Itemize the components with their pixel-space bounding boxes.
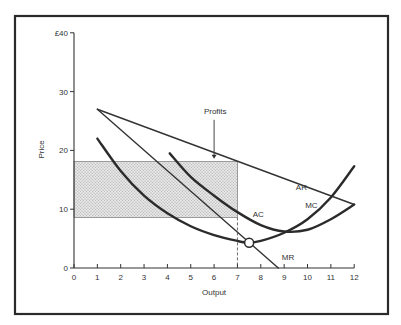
x-tick-label: 6 (212, 273, 217, 282)
x-tick-label: 7 (235, 273, 240, 282)
ac-label: AC (253, 210, 264, 219)
x-tick-label: 8 (259, 273, 264, 282)
y-tick-label: £40 (55, 29, 69, 38)
profits-shaded-area (74, 162, 237, 218)
x-tick-label: 9 (282, 273, 287, 282)
y-tick-label: 0 (64, 264, 69, 273)
x-axis-title: Output (202, 288, 227, 297)
y-tick-label: 20 (59, 146, 68, 155)
mc-label: MC (305, 201, 318, 210)
x-tick-label: 10 (303, 273, 312, 282)
y-axis-title: Price (37, 140, 46, 159)
x-tick-label: 2 (118, 273, 123, 282)
profits-label: Profits (204, 107, 227, 116)
x-tick-label: 11 (327, 273, 336, 282)
x-tick-label: 3 (142, 273, 147, 282)
chart: 01234567891011120102030£40OutputPrice AR… (0, 0, 401, 325)
equilibrium-marker (245, 238, 254, 247)
x-tick-label: 1 (95, 273, 100, 282)
profits-area (74, 162, 237, 218)
y-tick-label: 10 (59, 205, 68, 214)
mr-label: MR (282, 253, 295, 262)
x-tick-label: 12 (350, 273, 359, 282)
x-tick-label: 4 (165, 273, 170, 282)
x-tick-label: 5 (189, 273, 194, 282)
y-tick-label: 30 (59, 88, 68, 97)
profits-arrow-head (212, 155, 217, 159)
x-tick-label: 0 (72, 273, 77, 282)
ar-label: AR (296, 183, 307, 192)
